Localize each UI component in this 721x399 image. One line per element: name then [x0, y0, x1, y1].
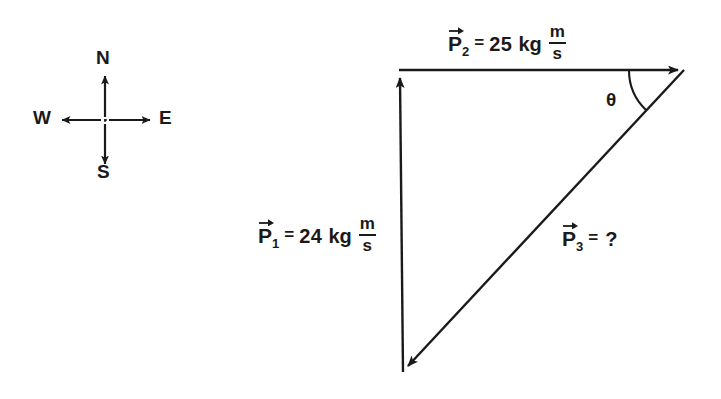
angle-label-theta: θ: [606, 90, 616, 109]
vector-overarrow-icon: [563, 221, 578, 229]
physics-vector-diagram: N S W E P2 = 25 kg m s P1 = 24: [0, 0, 721, 399]
compass-label-west: W: [33, 108, 51, 127]
unit-kg-p2: kg: [518, 34, 541, 54]
vector-label-p3: P3 = ?: [562, 228, 617, 249]
magnitude-p1: 24: [299, 226, 322, 246]
theta-arc: [629, 70, 646, 110]
unit-numerator-p1: m: [359, 215, 376, 233]
magnitude-p3: ?: [605, 229, 617, 249]
magnitude-p2: 25: [489, 34, 512, 54]
vector-symbol-p1-base: P: [258, 224, 272, 247]
unit-numerator-p2: m: [549, 23, 566, 41]
vector-p1-line: [400, 78, 403, 372]
vector-overarrow-icon: [449, 26, 464, 34]
vector-symbol-p2-subscript: 2: [462, 44, 469, 59]
vector-label-p1: P1 = 24 kg m s: [258, 216, 376, 256]
vector-symbol-p2: P2: [448, 33, 469, 54]
unit-fraction-p1: m s: [359, 215, 376, 255]
vector-symbol-p1-subscript: 1: [272, 236, 279, 251]
unit-denominator-p2: s: [552, 45, 563, 63]
vector-symbol-p3-subscript: 3: [576, 239, 583, 254]
unit-denominator-p1: s: [362, 237, 373, 255]
equals-sign-p2: =: [474, 34, 484, 51]
unit-kg-p1: kg: [328, 226, 351, 246]
compass-label-south: S: [97, 162, 110, 181]
vector-label-p2: P2 = 25 kg m s: [448, 24, 566, 64]
unit-fraction-p2: m s: [549, 23, 566, 63]
equals-sign-p3: =: [588, 229, 598, 246]
compass-rose-arrows: [62, 76, 150, 164]
vector-symbol-p1: P1: [258, 225, 279, 246]
vector-symbol-p2-base: P: [448, 32, 462, 55]
vector-symbol-p3-base: P: [562, 227, 576, 250]
vector-p3-line: [408, 70, 684, 366]
compass-label-north: N: [96, 48, 110, 67]
vector-symbol-p3: P3: [562, 228, 583, 249]
equals-sign-p1: =: [284, 226, 294, 243]
compass-label-east: E: [159, 108, 172, 127]
vector-overarrow-icon: [259, 218, 274, 226]
